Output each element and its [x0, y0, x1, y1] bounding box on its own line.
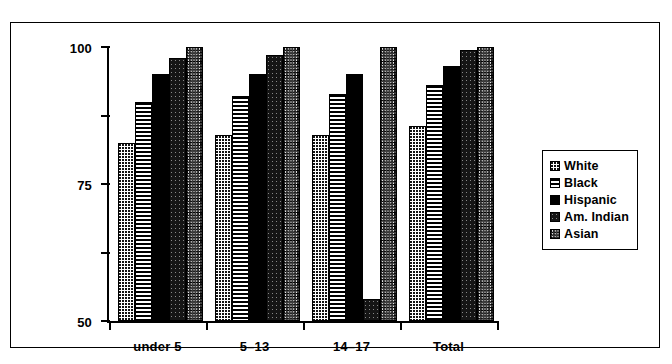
legend-swatch-icon [550, 229, 560, 239]
bar [215, 135, 232, 321]
bar [283, 47, 300, 321]
bar [249, 74, 266, 321]
legend-item-label: White [564, 159, 599, 173]
bar [477, 47, 494, 321]
y-axis-tick-label: 50 [77, 315, 92, 330]
bar [443, 66, 460, 321]
bar [152, 74, 169, 321]
legend-item-label: Hispanic [564, 193, 617, 207]
y-axis-tick-label: 75 [77, 178, 92, 193]
legend-item[interactable]: Black [550, 174, 629, 191]
legend-item-label: Am. Indian [564, 210, 629, 224]
legend-item[interactable]: Am. Indian [550, 208, 629, 225]
bar [232, 96, 249, 321]
chart-legend: WhiteBlackHispanicAm. IndianAsian [542, 150, 638, 250]
bar [329, 94, 346, 321]
x-axis-tick [303, 321, 305, 330]
bar [312, 135, 329, 321]
x-axis-tick [206, 321, 208, 330]
bar-group [215, 47, 300, 321]
bar [380, 47, 397, 321]
y-axis-tick-label: 100 [70, 41, 92, 56]
x-axis-tick [400, 321, 402, 330]
legend-swatch-icon [550, 178, 560, 188]
bar [266, 55, 283, 321]
legend-item[interactable]: White [550, 157, 629, 174]
x-axis-category-label: 5–13 [240, 339, 270, 354]
bar [460, 50, 477, 321]
x-axis-category-label: 14–17 [333, 339, 370, 354]
bar [186, 47, 203, 321]
legend-swatch-icon [550, 195, 560, 205]
bar [363, 299, 380, 321]
x-axis-category-label: under 5 [133, 339, 181, 354]
x-axis-tick [497, 321, 499, 330]
legend-item-label: Black [564, 176, 598, 190]
bar [426, 85, 443, 321]
legend-item[interactable]: Hispanic [550, 191, 629, 208]
x-axis [107, 321, 497, 323]
x-axis-tick [109, 321, 111, 330]
bar-group [312, 47, 397, 321]
bar [409, 126, 426, 321]
bar-group [409, 47, 494, 321]
bar [118, 143, 135, 321]
bar [346, 74, 363, 321]
legend-item[interactable]: Asian [550, 225, 629, 242]
x-axis-category-label: Total [433, 339, 464, 354]
legend-item-label: Asian [564, 227, 599, 241]
legend-swatch-icon [550, 212, 560, 222]
bar [135, 102, 152, 321]
chart-figure: 0255075100 under 55–1314–17Total WhiteBl… [10, 22, 660, 348]
bar-groups [109, 47, 497, 321]
plot-area: 0255075100 under 55–1314–17Total [107, 47, 531, 345]
bar-group [118, 47, 203, 321]
legend-swatch-icon [550, 161, 560, 171]
bar [169, 58, 186, 321]
